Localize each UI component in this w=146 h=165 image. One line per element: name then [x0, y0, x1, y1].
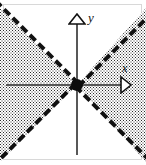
triangle-right-outline-icon	[120, 76, 132, 94]
x-axis-line	[6, 84, 123, 86]
triangle-up-outline-icon	[68, 13, 86, 25]
coordinate-plane-figure: y x	[0, 0, 146, 165]
x-axis-label: x	[122, 62, 127, 74]
y-axis-label: y	[88, 11, 94, 24]
origin-point-marker	[71, 79, 83, 91]
